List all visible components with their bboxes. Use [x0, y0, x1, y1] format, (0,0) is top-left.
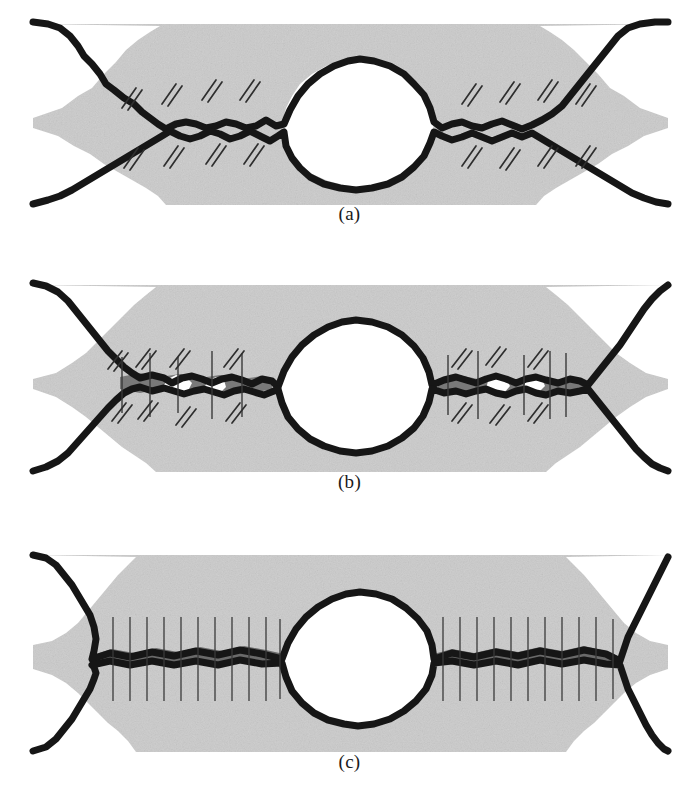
- panel-c-canvas: [0, 533, 699, 773]
- panel-a-caption: (a): [0, 203, 699, 225]
- figure-container: (a): [0, 0, 699, 808]
- panel-b: (b): [0, 261, 699, 531]
- panel-c: (c): [0, 533, 699, 808]
- panel-b-canvas: [0, 261, 699, 493]
- panel-b-caption: (b): [0, 471, 699, 493]
- panel-c-caption: (c): [0, 751, 699, 773]
- panel-a: (a): [0, 0, 699, 270]
- panel-a-canvas: [0, 0, 699, 230]
